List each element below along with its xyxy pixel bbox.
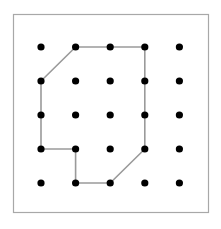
peg-dot-r4c4[interactable] (141, 145, 148, 152)
peg-dot-r2c1[interactable] (37, 77, 44, 84)
peg-dot-r5c5[interactable] (176, 179, 183, 186)
peg-dot-r1c1[interactable] (37, 43, 44, 50)
peg-dot-r4c2[interactable] (72, 145, 79, 152)
peg-dot-r3c3[interactable] (107, 111, 114, 118)
peg-dot-r5c1[interactable] (37, 179, 44, 186)
peg-dot-r1c3[interactable] (107, 43, 114, 50)
peg-dot-r5c2[interactable] (72, 179, 79, 186)
geoboard-canvas (0, 0, 221, 229)
peg-dot-r3c4[interactable] (141, 111, 148, 118)
peg-dot-r2c4[interactable] (141, 77, 148, 84)
peg-dot-r3c1[interactable] (37, 111, 44, 118)
peg-dot-r1c5[interactable] (176, 43, 183, 50)
peg-dot-r1c2[interactable] (72, 43, 79, 50)
peg-dot-r4c1[interactable] (37, 145, 44, 152)
peg-dot-r3c2[interactable] (72, 111, 79, 118)
peg-dot-r1c4[interactable] (141, 43, 148, 50)
geoboard-figure (0, 0, 221, 229)
peg-dot-r4c5[interactable] (176, 145, 183, 152)
peg-dot-r2c2[interactable] (72, 77, 79, 84)
peg-dot-r2c5[interactable] (176, 77, 183, 84)
peg-dot-r5c4[interactable] (141, 179, 148, 186)
peg-dot-r2c3[interactable] (107, 77, 114, 84)
peg-dot-r3c5[interactable] (176, 111, 183, 118)
peg-dot-r4c3[interactable] (107, 145, 114, 152)
peg-dot-r5c3[interactable] (107, 179, 114, 186)
